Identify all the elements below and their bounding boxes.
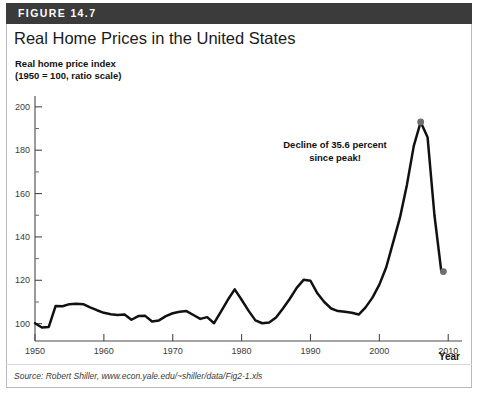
line-chart: 100120140160180200 195019601970198019902… xyxy=(0,0,478,393)
x-ticks-group: 1950196019701980199020002010 xyxy=(25,334,458,356)
y-tick-label: 140 xyxy=(15,232,30,242)
y-tick-label: 100 xyxy=(15,319,30,329)
y-tick-label: 120 xyxy=(15,275,30,285)
source-divider xyxy=(6,364,472,365)
data-point-marker-peak xyxy=(417,119,424,126)
data-point-marker-latest xyxy=(440,268,447,275)
annotation-decline-line1: Decline of 35.6 percent xyxy=(283,139,387,150)
y-tick-label: 200 xyxy=(15,102,30,112)
data-series-line xyxy=(35,122,441,328)
annotation-decline-line2: since peak! xyxy=(309,152,361,163)
y-ticks-group: 100120140160180200 xyxy=(15,102,42,329)
x-tick-label: 2000 xyxy=(369,346,389,356)
figure-container: FIGURE 14.7 Real Home Prices in the Unit… xyxy=(0,0,478,393)
x-tick-label: 1950 xyxy=(25,346,45,356)
x-axis-label: Year xyxy=(439,351,460,362)
y-tick-label: 160 xyxy=(15,189,30,199)
x-tick-label: 1960 xyxy=(94,346,114,356)
source-note: Source: Robert Shiller, www.econ.yale.ed… xyxy=(14,371,262,381)
x-tick-label: 1970 xyxy=(163,346,183,356)
x-tick-label: 1990 xyxy=(300,346,320,356)
axes-group xyxy=(35,96,462,341)
x-tick-label: 1980 xyxy=(232,346,252,356)
y-tick-label: 180 xyxy=(15,145,30,155)
